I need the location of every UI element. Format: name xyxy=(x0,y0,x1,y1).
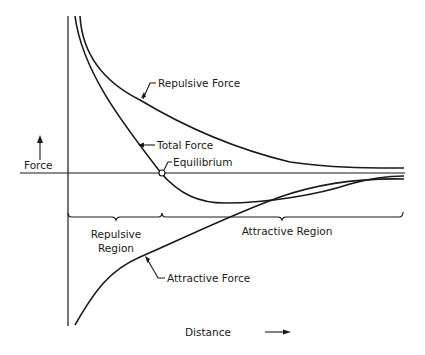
force-distance-diagram: Force Distance Repulsive Force Total For… xyxy=(0,0,425,355)
repulsive-region-label-line1: Repulsive xyxy=(91,228,142,240)
equilibrium-point xyxy=(159,170,165,176)
repulsive-force-label: Repulsive Force xyxy=(158,77,240,89)
distance-arrowhead-icon xyxy=(283,330,291,335)
attractive-force-label: Attractive Force xyxy=(167,272,250,284)
attractive-region-label: Attractive Region xyxy=(242,225,333,237)
x-axis-label: Distance xyxy=(185,326,231,338)
total-force-curve xyxy=(75,16,404,203)
repulsive-region-brace xyxy=(68,213,162,220)
equilibrium-label: Equilibrium xyxy=(173,156,233,168)
force-arrowhead-icon xyxy=(37,135,43,143)
attractive-region-brace xyxy=(162,212,403,220)
total-force-label: Total Force xyxy=(156,139,213,151)
equilibrium-leader xyxy=(164,162,172,170)
repulsive-region-label-line2: Region xyxy=(98,242,134,254)
repulsive-force-curve xyxy=(80,16,404,168)
y-axis-label: Force xyxy=(24,159,52,171)
